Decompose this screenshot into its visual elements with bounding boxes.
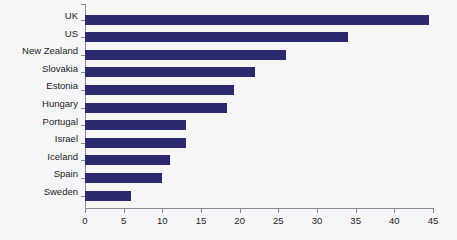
bar-row bbox=[85, 187, 433, 205]
y-axis-tick bbox=[81, 90, 85, 91]
bar bbox=[85, 103, 227, 113]
x-axis-tick bbox=[240, 209, 241, 213]
bar bbox=[85, 85, 234, 95]
bar-row bbox=[85, 46, 433, 64]
x-axis-tick bbox=[85, 209, 86, 213]
x-axis-tick bbox=[201, 209, 202, 213]
x-axis-tick-label: 5 bbox=[112, 215, 136, 226]
bar-row bbox=[85, 152, 433, 170]
x-axis-tick bbox=[124, 209, 125, 213]
category-label: Israel bbox=[0, 134, 78, 144]
bar-chart: UKUSNew ZealandSlovakiaEstoniaHungaryPor… bbox=[0, 0, 457, 240]
category-label: New Zealand bbox=[0, 46, 78, 56]
x-axis-tick-label: 25 bbox=[266, 215, 290, 226]
bar bbox=[85, 120, 186, 130]
y-axis-tick bbox=[81, 108, 85, 109]
bar-row bbox=[85, 64, 433, 82]
y-axis-tick bbox=[81, 196, 85, 197]
category-label: Slovakia bbox=[0, 64, 78, 74]
x-axis-line bbox=[85, 208, 434, 209]
category-label: UK bbox=[0, 11, 78, 21]
x-axis-tick-label: 15 bbox=[189, 215, 213, 226]
bar bbox=[85, 173, 162, 183]
bar bbox=[85, 191, 131, 201]
x-axis-tick-label: 45 bbox=[421, 215, 445, 226]
category-label: Sweden bbox=[0, 187, 78, 197]
y-axis-tick bbox=[81, 37, 85, 38]
y-axis-tick bbox=[81, 143, 85, 144]
x-axis-tick-label: 0 bbox=[73, 215, 97, 226]
x-axis-tick-label: 40 bbox=[382, 215, 406, 226]
y-axis-tick bbox=[81, 4, 85, 5]
x-axis-tick bbox=[278, 209, 279, 213]
bar-row bbox=[85, 29, 433, 47]
x-axis-tick bbox=[394, 209, 395, 213]
bar-row bbox=[85, 81, 433, 99]
bar-row bbox=[85, 169, 433, 187]
y-axis-tick bbox=[81, 20, 85, 21]
x-axis-tick bbox=[317, 209, 318, 213]
y-axis-tick bbox=[81, 55, 85, 56]
bar-row bbox=[85, 117, 433, 135]
category-label: Iceland bbox=[0, 152, 78, 162]
bar-row bbox=[85, 99, 433, 117]
x-axis-tick bbox=[356, 209, 357, 213]
x-axis-tick-label: 35 bbox=[344, 215, 368, 226]
bar bbox=[85, 67, 255, 77]
category-label: Hungary bbox=[0, 99, 78, 109]
category-label: Spain bbox=[0, 169, 78, 179]
x-axis-tick-label: 30 bbox=[305, 215, 329, 226]
y-axis-tick bbox=[81, 125, 85, 126]
y-axis-tick bbox=[81, 160, 85, 161]
category-label: Estonia bbox=[0, 81, 78, 91]
bar bbox=[85, 138, 186, 148]
x-axis-tick-label: 20 bbox=[228, 215, 252, 226]
bar bbox=[85, 155, 170, 165]
x-axis-tick bbox=[433, 209, 434, 213]
bars-layer bbox=[85, 4, 433, 208]
y-axis-tick bbox=[81, 72, 85, 73]
bar-row bbox=[85, 134, 433, 152]
bar bbox=[85, 32, 348, 42]
category-axis-labels: UKUSNew ZealandSlovakiaEstoniaHungaryPor… bbox=[0, 4, 78, 208]
x-axis-tick-label: 10 bbox=[150, 215, 174, 226]
category-label: Portugal bbox=[0, 117, 78, 127]
bar-row bbox=[85, 11, 433, 29]
x-axis-tick bbox=[162, 209, 163, 213]
plot-area bbox=[85, 4, 433, 208]
y-axis-tick bbox=[81, 178, 85, 179]
bar bbox=[85, 50, 286, 60]
bar bbox=[85, 15, 429, 25]
category-label: US bbox=[0, 29, 78, 39]
